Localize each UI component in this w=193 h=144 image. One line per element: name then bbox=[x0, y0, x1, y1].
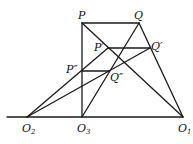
geometry-diagram: P Q P′ Q′ P″ Q″ O2 O3 O1 bbox=[0, 0, 193, 144]
label-p: P bbox=[77, 9, 86, 22]
label-p-prime: P′ bbox=[93, 41, 104, 54]
label-o1: O1 bbox=[178, 122, 192, 136]
segment-q-o1 bbox=[139, 23, 183, 117]
label-q: Q bbox=[134, 9, 143, 22]
label-o2: O2 bbox=[22, 122, 36, 136]
label-q-double-prime: Q″ bbox=[110, 71, 124, 84]
segment-o2-p1 bbox=[27, 48, 108, 117]
segments bbox=[7, 23, 183, 117]
label-o3: O3 bbox=[77, 122, 91, 136]
label-q-prime: Q′ bbox=[151, 40, 163, 53]
segment-p-o1 bbox=[82, 23, 183, 117]
label-p-double-prime: P″ bbox=[65, 63, 78, 76]
